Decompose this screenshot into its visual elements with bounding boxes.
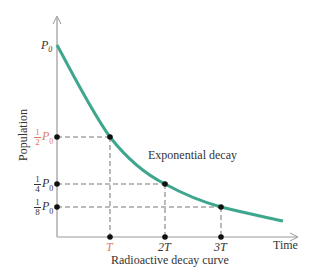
half-p0-label: 12P0 xyxy=(34,128,53,147)
caption: Radioactive decay curve xyxy=(111,253,229,268)
quarter-p0-label: 14P0 xyxy=(34,175,53,194)
p0-label: P0 xyxy=(41,38,52,54)
curve-label: Exponential decay xyxy=(148,148,237,163)
x-axis-label: Time xyxy=(273,238,298,253)
y-axis-label: Population xyxy=(16,109,31,161)
eighth-p0-label: 18P0 xyxy=(34,198,53,217)
decay-curve xyxy=(57,45,283,221)
